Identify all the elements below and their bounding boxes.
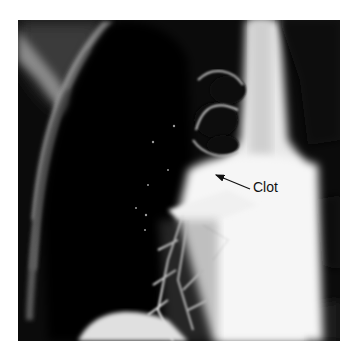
clot-label: Clot (253, 180, 278, 194)
xray-image (18, 20, 340, 341)
xray-drawing (18, 20, 340, 341)
